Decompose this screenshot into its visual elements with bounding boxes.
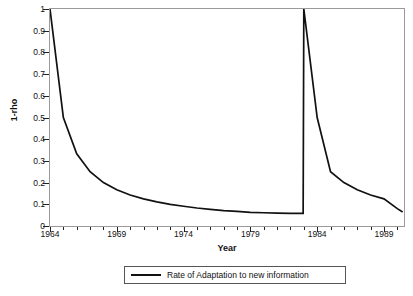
x-axis-label: Year	[49, 243, 405, 253]
x-tick-label: 1974	[164, 229, 204, 239]
y-tick-label: 0.4	[21, 135, 45, 144]
x-tick-label: 1964	[30, 229, 70, 239]
y-tick-label: 1	[21, 5, 45, 14]
y-tick-label: 0.8	[21, 48, 45, 57]
y-tick-label: 0.5	[21, 114, 45, 123]
legend-line-swatch	[131, 274, 161, 276]
y-axis-tick-labels: 00.10.20.30.40.50.60.70.80.91	[19, 0, 45, 296]
x-tick-label: 1984	[297, 229, 337, 239]
chart-figure: 1-rho 00.10.20.30.40.50.60.70.80.91 1964…	[0, 0, 413, 296]
y-tick-label: 0.7	[21, 70, 45, 79]
plot-area	[49, 8, 405, 227]
x-tick-label: 1989	[364, 229, 404, 239]
y-axis-label: 1-rho	[9, 80, 19, 140]
chart-legend: Rate of Adaptation to new information	[124, 266, 346, 284]
y-tick-label: 0.9	[21, 27, 45, 36]
x-axis-tick-labels: 196419691974197919841989	[0, 229, 413, 243]
y-tick-label: 0.6	[21, 92, 45, 101]
y-tick-label: 0.1	[21, 200, 45, 209]
y-tick-label: 0.2	[21, 179, 45, 188]
legend-label: Rate of Adaptation to new information	[167, 270, 309, 280]
series-line-rate-of-adaptation	[50, 9, 404, 226]
x-tick-label: 1969	[97, 229, 137, 239]
x-tick-label: 1979	[230, 229, 270, 239]
y-tick-label: 0.3	[21, 157, 45, 166]
